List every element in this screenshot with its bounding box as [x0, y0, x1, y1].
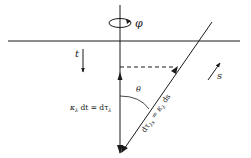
angle-arc-theta	[120, 96, 149, 109]
ray-bottom-arrowhead-icon	[121, 145, 128, 153]
vertical-up-arrowhead-icon	[118, 72, 123, 80]
diagram-canvas: φ t s θ κλ dt = dτλ dτλs = κλ ds	[0, 0, 251, 158]
lambda-sub-2: λ	[107, 107, 111, 113]
vertical-vector-equation: dt = dτ	[78, 103, 108, 112]
t-label: t	[75, 48, 80, 59]
theta-label: θ	[136, 85, 141, 94]
vertical-vector-label: κλ dt = dτλ	[69, 103, 111, 113]
s-label: s	[217, 70, 222, 81]
phi-label: φ	[135, 17, 143, 30]
diagonal-vector-label: dτλs = κλ ds	[139, 92, 173, 135]
